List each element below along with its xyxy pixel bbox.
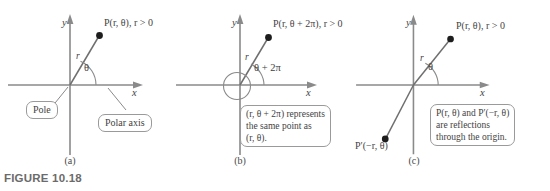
panel-a-polar-point: y x r θ P(r, θ), r > 0 Pole Polar axis (…	[0, 0, 186, 170]
y-axis-label-a: y	[62, 18, 67, 29]
y-axis-label-b: y	[232, 18, 237, 29]
callout-same-point-line-2: the same point as	[246, 120, 325, 132]
y-axis-arrowhead-a	[67, 14, 74, 24]
point-label-b: P(r, θ + 2π), r > 0	[273, 19, 343, 29]
callout-pole: Pole	[26, 101, 58, 119]
point-p-marker-b	[265, 34, 272, 41]
panel-c-negative-radius: y x r θ P(r, θ), r > 0 P′(−r, θ) P(r, θ)…	[362, 0, 548, 170]
callout-reflection-line-1: P(r, θ) and P′(−r, θ)	[436, 107, 509, 119]
x-axis-label-a: x	[132, 88, 137, 99]
panel-a-diagram	[0, 0, 186, 170]
radius-label-b: r	[245, 53, 249, 63]
panel-b-coterminal-angle: y x r θ + 2π P(r, θ + 2π), r > 0 (r, θ +…	[182, 0, 368, 170]
point-p-marker-c	[447, 36, 454, 43]
figure-caption: FIGURE 10.18	[4, 172, 82, 184]
point-p-marker-a	[96, 32, 103, 39]
x-axis-label-c: x	[480, 88, 485, 99]
callout-reflection-line-3: through the origin.	[436, 131, 509, 143]
angle-label-a: θ	[84, 63, 89, 74]
point-label-c: P(r, θ), r > 0	[456, 21, 505, 31]
callout-reflection-line-2: are reflections	[436, 119, 509, 131]
polar-axis-leader-line	[108, 88, 126, 110]
y-axis-arrowhead-c	[410, 15, 417, 25]
full-revolution-circle-b	[224, 73, 251, 100]
panel-sublabel-c: (c)	[394, 155, 434, 166]
callout-reflection: P(r, θ) and P′(−r, θ) are reflections th…	[430, 104, 515, 146]
callout-same-point: (r, θ + 2π) represents the same point as…	[240, 105, 331, 147]
angle-label-b: θ + 2π	[254, 63, 281, 74]
reflected-ray-c	[386, 85, 414, 138]
reflected-point-label-c: P′(−r, θ)	[355, 141, 388, 151]
callout-polar-axis: Polar axis	[98, 114, 152, 132]
point-label-a: P(r, θ), r > 0	[104, 18, 153, 28]
y-axis-arrowhead-b	[237, 14, 244, 24]
x-axis-label-b: x	[306, 88, 311, 99]
radius-label-a: r	[76, 52, 80, 62]
panel-sublabel-b: (b)	[220, 155, 260, 166]
panel-sublabel-a: (a)	[50, 155, 90, 166]
y-axis-label-c: y	[406, 18, 411, 29]
angle-label-c: θ	[428, 62, 433, 73]
callout-same-point-line-1: (r, θ + 2π) represents	[246, 108, 325, 120]
radius-label-c: r	[420, 54, 424, 64]
callout-same-point-line-3: (r, θ).	[246, 132, 325, 144]
figure-10-18: y x r θ P(r, θ), r > 0 Pole Polar axis (…	[0, 0, 550, 191]
